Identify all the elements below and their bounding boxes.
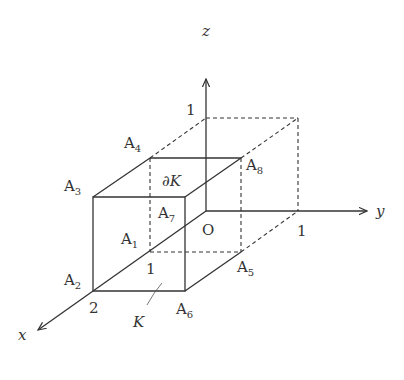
- edge-a6-a5: [185, 252, 241, 291]
- box-x-tick-label: 1: [146, 260, 156, 278]
- y-tick-label: 1: [297, 222, 307, 240]
- vertex-a5-label: A5: [236, 258, 254, 278]
- vertex-a6-label: A6: [175, 300, 193, 320]
- region-k-label: K: [132, 313, 145, 331]
- edge-a3-a4: [93, 158, 150, 197]
- vertex-a8-label: A8: [245, 156, 263, 176]
- vertex-a4-label: A4: [123, 134, 141, 154]
- labels: z y x 1 1 2 1 O A1 A2 A3 A4 A5 A6 A7 A8 …: [18, 22, 385, 344]
- boundary-label: ∂K: [162, 172, 182, 190]
- vertex-a1-label: A1: [120, 230, 138, 250]
- x-tick-label: 2: [89, 299, 99, 317]
- box-diagram: z y x 1 1 2 1 O A1 A2 A3 A4 A5 A6 A7 A8 …: [0, 0, 404, 380]
- edge-a7-a8: [185, 158, 241, 197]
- vertex-a7-label: A7: [157, 204, 175, 224]
- edge-a4-back: [150, 118, 206, 158]
- x-axis-label: x: [18, 326, 27, 344]
- y-axis-label: y: [375, 202, 385, 220]
- front-face: [93, 197, 185, 291]
- k-pointer-line: [147, 283, 162, 305]
- vertex-a3-label: A3: [63, 177, 81, 197]
- origin-label: O: [202, 221, 214, 239]
- edge-a8-back: [241, 118, 298, 158]
- vertex-a2-label: A2: [63, 271, 81, 291]
- z-tick-label: 1: [186, 101, 196, 119]
- axes: [38, 79, 367, 330]
- z-axis-label: z: [201, 22, 210, 40]
- edge-a5-back: [241, 211, 298, 252]
